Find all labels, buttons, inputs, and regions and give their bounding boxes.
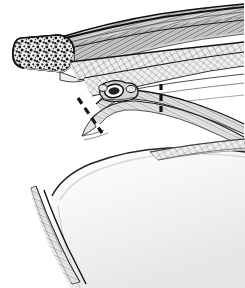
- neurovascular-bundle: [99, 81, 138, 102]
- satellite-lobe-right: [126, 85, 136, 92]
- pale-flap: [52, 148, 245, 288]
- anatomical-illustration: [0, 0, 245, 288]
- satellite-lobe-left: [99, 85, 107, 92]
- figure-container: Anatomical cross-section illustration: [0, 0, 245, 288]
